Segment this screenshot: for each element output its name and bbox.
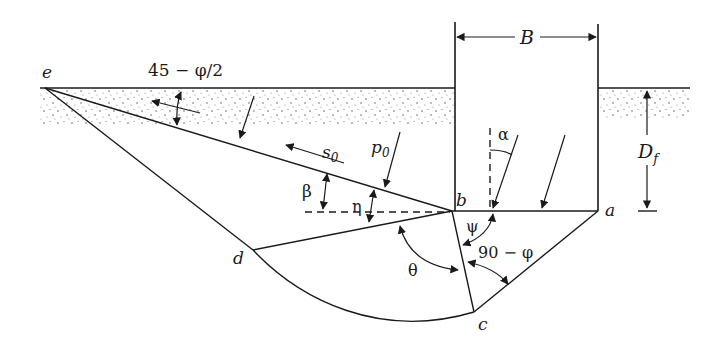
- eta-angle-marker: [369, 190, 374, 222]
- eta-label: η: [352, 197, 362, 216]
- depth-label: Df: [637, 140, 660, 166]
- load-arrow-base: [542, 135, 565, 208]
- soil-overburden-left: [40, 88, 455, 125]
- load-arrow-alpha: [493, 135, 518, 208]
- theta-label: θ: [408, 261, 418, 280]
- point-d-label: d: [233, 248, 244, 268]
- beta-label: β: [302, 181, 312, 201]
- normal-label: p0: [371, 137, 390, 160]
- alpha-arc: [490, 150, 512, 155]
- alpha-label: α: [498, 125, 509, 144]
- width-label: B: [519, 26, 534, 48]
- bearing-capacity-diagram: B Df 45 − φ/2 s0 p0 β η: [0, 0, 725, 352]
- soil-overburden-right: [600, 88, 690, 118]
- point-e-label: e: [42, 62, 52, 82]
- point-a-label: a: [605, 200, 615, 220]
- shear-label: s0: [322, 142, 339, 165]
- footing: [452, 22, 598, 211]
- ninety-minus-phi-label: 90 − φ: [478, 243, 533, 262]
- point-c-label: c: [478, 314, 488, 334]
- ninety-minus-phi-marker: [468, 262, 508, 284]
- wedge-angle-label: 45 − φ/2: [148, 60, 223, 80]
- beta-angle-marker: [323, 174, 327, 209]
- point-b-label: b: [456, 190, 467, 210]
- psi-label: ψ: [466, 217, 479, 236]
- width-dimension: B: [457, 26, 596, 48]
